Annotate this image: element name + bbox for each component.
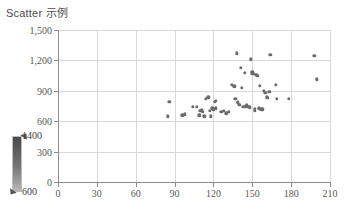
x-axis-tick-label: 30 [92,188,102,199]
x-axis-tick [291,183,292,187]
y-axis-tick-label: 600 [37,116,52,127]
chart-title: Scatter 示例 [6,4,68,20]
grid-line-horizontal [58,60,330,61]
x-axis-tick-label: 120 [206,188,221,199]
y-axis-tick [54,152,58,153]
y-axis-tick [54,121,58,122]
x-axis-tick [252,183,253,187]
x-axis-line [58,182,331,183]
x-axis-tick-label: 90 [170,188,180,199]
colorbar-legend[interactable] [12,136,22,192]
y-axis-tick-label: 900 [37,85,52,96]
grid-line-horizontal [58,30,330,31]
y-axis-tick [54,60,58,61]
colorbar-max-label: 1400 [22,130,42,141]
x-axis-tick [58,183,59,187]
grid-line-horizontal [58,91,330,92]
x-axis-tick [213,183,214,187]
grid-line-vertical [252,30,253,182]
grid-line-vertical [330,30,331,182]
grid-line-horizontal [58,152,330,153]
x-axis-tick-label: 150 [245,188,260,199]
x-axis-tick [330,183,331,187]
y-axis-tick-label: 1,500 [30,25,53,36]
y-axis-tick-label: 300 [37,146,52,157]
x-axis-tick-label: 210 [323,188,338,199]
grid-line-vertical [136,30,137,182]
x-axis-tick [136,183,137,187]
x-axis-tick [175,183,176,187]
colorbar-min-label: 600 [22,186,37,197]
y-axis-line [58,30,59,183]
x-axis-tick-label: 60 [131,188,141,199]
y-axis-tick-label: 0 [47,177,52,188]
grid-line-horizontal [58,121,330,122]
y-axis-tick-label: 1,200 [30,55,53,66]
x-axis-tick-label: 180 [284,188,299,199]
grid-line-vertical [97,30,98,182]
y-axis-tick [54,91,58,92]
chart-root: Scatter 示例 03006009001,2001,500030609012… [0,0,346,212]
x-axis-tick [97,183,98,187]
colorbar-gradient [12,136,22,192]
grid-line-vertical [175,30,176,182]
grid-line-vertical [291,30,292,182]
y-axis-tick [54,30,58,31]
x-axis-tick-label: 0 [56,188,61,199]
